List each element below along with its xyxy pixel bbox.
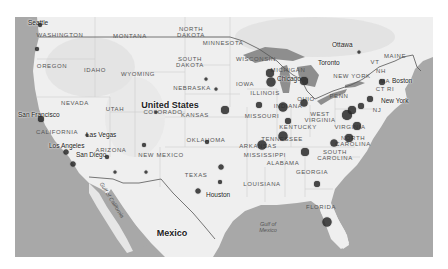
city-label: New York	[381, 98, 408, 105]
map-marker-indianapolis[interactable]	[279, 103, 288, 112]
region-label: IDAHO	[84, 67, 106, 73]
map-marker-portland[interactable]	[35, 47, 39, 51]
map-marker-jacksonville[interactable]	[314, 181, 320, 187]
map-marker-denver[interactable]	[155, 111, 158, 114]
map-marker-raleigh[interactable]	[345, 134, 353, 142]
map-marker-los-angeles[interactable]	[64, 150, 69, 155]
region-label: OREGON	[37, 63, 67, 69]
region-label: NORTHDAKOTA	[177, 26, 205, 38]
map-marker-memphis[interactable]	[258, 141, 267, 150]
region-label: MICHIGAN	[271, 67, 306, 73]
map-marker-ottawa[interactable]	[358, 51, 361, 54]
map-marker-charlotte[interactable]	[331, 140, 338, 147]
map-marker-kansas-city[interactable]	[221, 106, 229, 114]
map-marker-san-francisco[interactable]	[38, 116, 44, 122]
map-marker-new-york[interactable]	[367, 96, 373, 102]
region-label: LOUISIANA	[243, 181, 280, 187]
map-canvas[interactable]: WASHINGTONMONTANAOREGONIDAHOWYOMINGNEVAD…	[15, 17, 433, 257]
city-label: Las Vegas	[86, 132, 116, 139]
map-marker-seattle[interactable]	[38, 23, 42, 27]
map-marker-san-diego[interactable]	[71, 162, 76, 167]
region-label: NEW MEXICO	[138, 152, 183, 158]
region-label: PENN	[329, 93, 348, 99]
map-marker-albuquerque[interactable]	[142, 143, 146, 147]
region-label: MONTANA	[113, 33, 147, 39]
region-label: UTAH	[106, 106, 124, 112]
region-label: KANSAS	[181, 112, 209, 118]
region-label: MAINE	[384, 53, 406, 59]
region-label: NEW YORK	[333, 73, 370, 79]
map-marker-el-paso[interactable]	[145, 171, 148, 174]
region-label: VT	[371, 59, 380, 65]
map-marker-phoenix[interactable]	[105, 155, 109, 159]
region-label: ALABAMA	[267, 160, 300, 166]
region-label: IOWA	[236, 81, 254, 87]
city-label: San Diego	[76, 152, 106, 159]
region-label: MISSISSIPPI	[244, 152, 286, 158]
map-marker-boston[interactable]	[379, 79, 385, 85]
city-label: Houston	[206, 192, 230, 199]
city-label: Ottawa	[332, 42, 353, 49]
region-label: NEVADA	[61, 100, 89, 106]
map-marker-las-vegas[interactable]	[86, 134, 89, 137]
map-marker-st-louis[interactable]	[256, 102, 262, 108]
map-marker-miami[interactable]	[323, 218, 332, 227]
map-marker-minneapolis[interactable]	[205, 78, 208, 81]
water-label: Gulf ofMexico	[259, 221, 276, 233]
region-label: MISSOURI	[245, 113, 279, 119]
region-label: TEXAS	[185, 172, 208, 178]
map-marker-tucson[interactable]	[114, 171, 117, 174]
map-marker-chicago[interactable]	[267, 78, 276, 87]
map-marker-louisville[interactable]	[285, 118, 291, 124]
region-label: CALIFORNIA	[36, 129, 78, 135]
land-florida	[319, 205, 349, 249]
region-label: NEBRASKA	[173, 85, 210, 91]
map-marker-san-antonio[interactable]	[196, 189, 201, 194]
city-label: Toronto	[318, 60, 340, 67]
region-label: WESTVIRGINIA	[304, 111, 335, 123]
region-label: CT RI	[376, 86, 395, 92]
map-marker-nashville[interactable]	[279, 132, 288, 141]
region-label: NORTHCAROLINA	[335, 135, 370, 147]
map-marker-houston[interactable]	[218, 180, 222, 184]
region-label: NH	[376, 68, 386, 74]
map-marker-baltimore[interactable]	[348, 106, 356, 114]
city-label: Boston	[392, 78, 412, 85]
region-label: GEORGIA	[296, 169, 328, 175]
country-label: Mexico	[157, 228, 188, 238]
map-marker-atlanta[interactable]	[301, 148, 309, 156]
map-marker-columbus[interactable]	[301, 100, 308, 107]
map-marker-detroit[interactable]	[300, 77, 308, 85]
region-label: WISCONSIN	[236, 56, 276, 62]
country-label: United States	[141, 100, 199, 110]
region-label: WYOMING	[121, 71, 155, 77]
region-label: FLORIDA	[306, 204, 336, 210]
map-marker-oklahoma-city[interactable]	[205, 140, 209, 144]
region-label: MINNESOTA	[203, 40, 244, 46]
region-label: KENTUCKY	[279, 124, 316, 130]
map-marker-chicago-north[interactable]	[266, 69, 274, 77]
map-marker-omaha[interactable]	[215, 88, 218, 91]
region-label: ILLINOIS	[250, 90, 279, 96]
region-label: WASHINGTON	[36, 32, 83, 38]
city-label: Chicago	[277, 76, 301, 83]
region-label: SOUTHDAKOTA	[176, 56, 204, 68]
map-marker-norfolk[interactable]	[353, 122, 361, 130]
region-label: SOUTHCAROLINA	[317, 149, 352, 161]
map-marker-dallas[interactable]	[219, 165, 224, 170]
city-label: Los Angeles	[49, 143, 84, 150]
map-marker-philadelphia[interactable]	[358, 103, 364, 109]
region-label: NJ	[373, 107, 382, 113]
